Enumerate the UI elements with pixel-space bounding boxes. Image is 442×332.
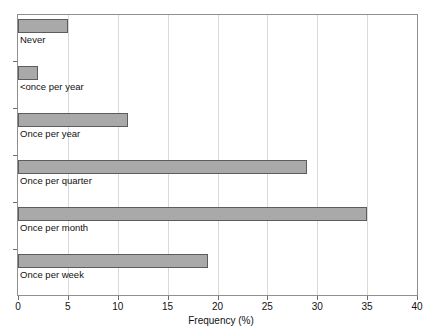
plot-area: Never<once per yearOnce per yearOnce per… bbox=[17, 14, 418, 296]
bar bbox=[18, 19, 68, 33]
category-label: Never bbox=[20, 34, 45, 46]
y-axis-tick bbox=[13, 108, 17, 109]
x-axis-title: Frequency (%) bbox=[0, 315, 442, 327]
x-axis-tick-label: 20 bbox=[203, 301, 233, 313]
x-axis-tick-10 bbox=[118, 296, 119, 300]
bar bbox=[18, 207, 367, 221]
x-axis-tick-20 bbox=[218, 296, 219, 300]
x-axis-tick-label: 10 bbox=[103, 301, 133, 313]
bar bbox=[18, 66, 38, 80]
x-axis-tick-40 bbox=[417, 296, 418, 300]
bar-row: Never bbox=[18, 19, 417, 62]
x-axis-tick-35 bbox=[367, 296, 368, 300]
bar-row: <once per year bbox=[18, 66, 417, 109]
bar-row: Once per quarter bbox=[18, 160, 417, 203]
category-label: Once per week bbox=[20, 269, 84, 281]
y-axis-tick bbox=[13, 61, 17, 62]
bar-row: Once per year bbox=[18, 113, 417, 156]
bars-group: Never<once per yearOnce per yearOnce per… bbox=[18, 15, 417, 295]
category-label: Once per quarter bbox=[20, 175, 92, 187]
bar bbox=[18, 160, 307, 174]
category-label: Once per year bbox=[20, 128, 80, 140]
x-axis-tick-30 bbox=[317, 296, 318, 300]
x-axis-tick-25 bbox=[267, 296, 268, 300]
x-axis-tick-label: 40 bbox=[402, 301, 432, 313]
y-axis-tick bbox=[13, 155, 17, 156]
bar-row: Once per month bbox=[18, 207, 417, 250]
x-axis-tick-label: 0 bbox=[3, 301, 33, 313]
bar bbox=[18, 254, 208, 268]
x-axis-tick-label: 15 bbox=[153, 301, 183, 313]
cut-off-title-text bbox=[0, 0, 442, 3]
bar-row: Once per week bbox=[18, 254, 417, 297]
category-label: Once per month bbox=[20, 222, 88, 234]
x-axis-tick-5 bbox=[68, 296, 69, 300]
bar bbox=[18, 113, 128, 127]
x-axis-tick-15 bbox=[168, 296, 169, 300]
category-label: <once per year bbox=[20, 81, 84, 93]
x-axis-tick-label: 25 bbox=[252, 301, 282, 313]
x-axis-tick-label: 35 bbox=[352, 301, 382, 313]
y-axis-tick bbox=[13, 202, 17, 203]
x-axis-tick-label: 30 bbox=[302, 301, 332, 313]
x-axis-tick-label: 5 bbox=[53, 301, 83, 313]
bar-chart-figure: Never<once per yearOnce per yearOnce per… bbox=[0, 0, 442, 332]
y-axis-tick bbox=[13, 249, 17, 250]
x-axis-tick-0 bbox=[18, 296, 19, 300]
